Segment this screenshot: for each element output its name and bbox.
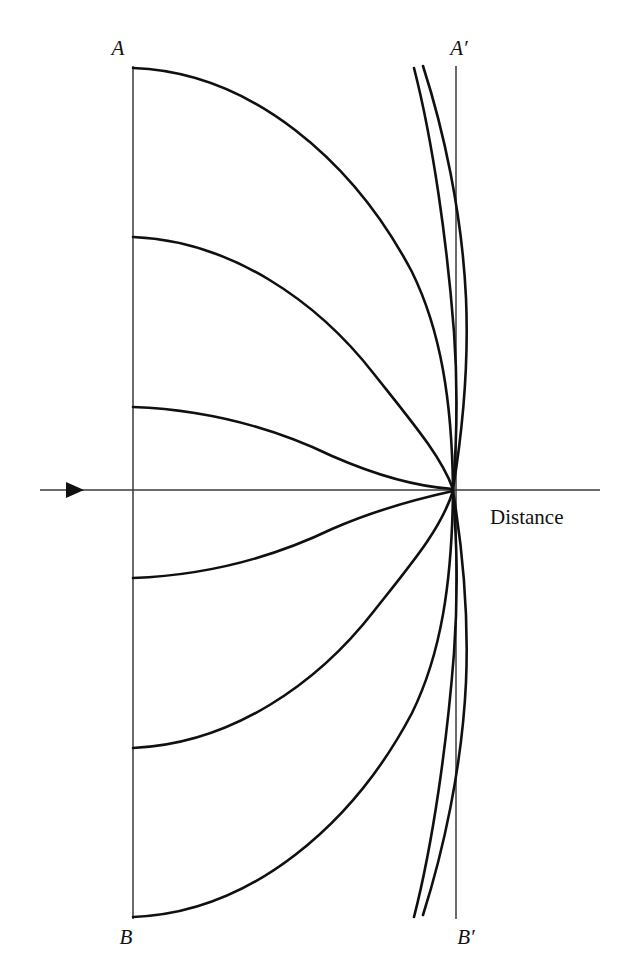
wavefront-arc-1-upper	[133, 68, 453, 489]
wavefront-arc-3-lower	[133, 491, 453, 578]
wavefront-arc-1-lower	[133, 491, 453, 917]
wavefront-arc-2-lower	[133, 491, 453, 748]
figure-canvas: A A′ B B′ Distance	[0, 0, 628, 973]
axis-label-distance: Distance	[490, 505, 563, 529]
label-b: B	[120, 925, 133, 949]
label-a-prime: A′	[448, 36, 468, 60]
wavefront-figure: A A′ B B′ Distance	[0, 0, 628, 973]
distance-axis-arrow-icon	[66, 482, 84, 498]
wavefront-arc-2-upper	[133, 237, 453, 489]
envelope-wavefront-upper	[423, 66, 467, 489]
wavefront-arc-3-upper	[133, 407, 453, 489]
label-a: A	[110, 36, 125, 60]
label-b-prime: B′	[457, 925, 475, 949]
